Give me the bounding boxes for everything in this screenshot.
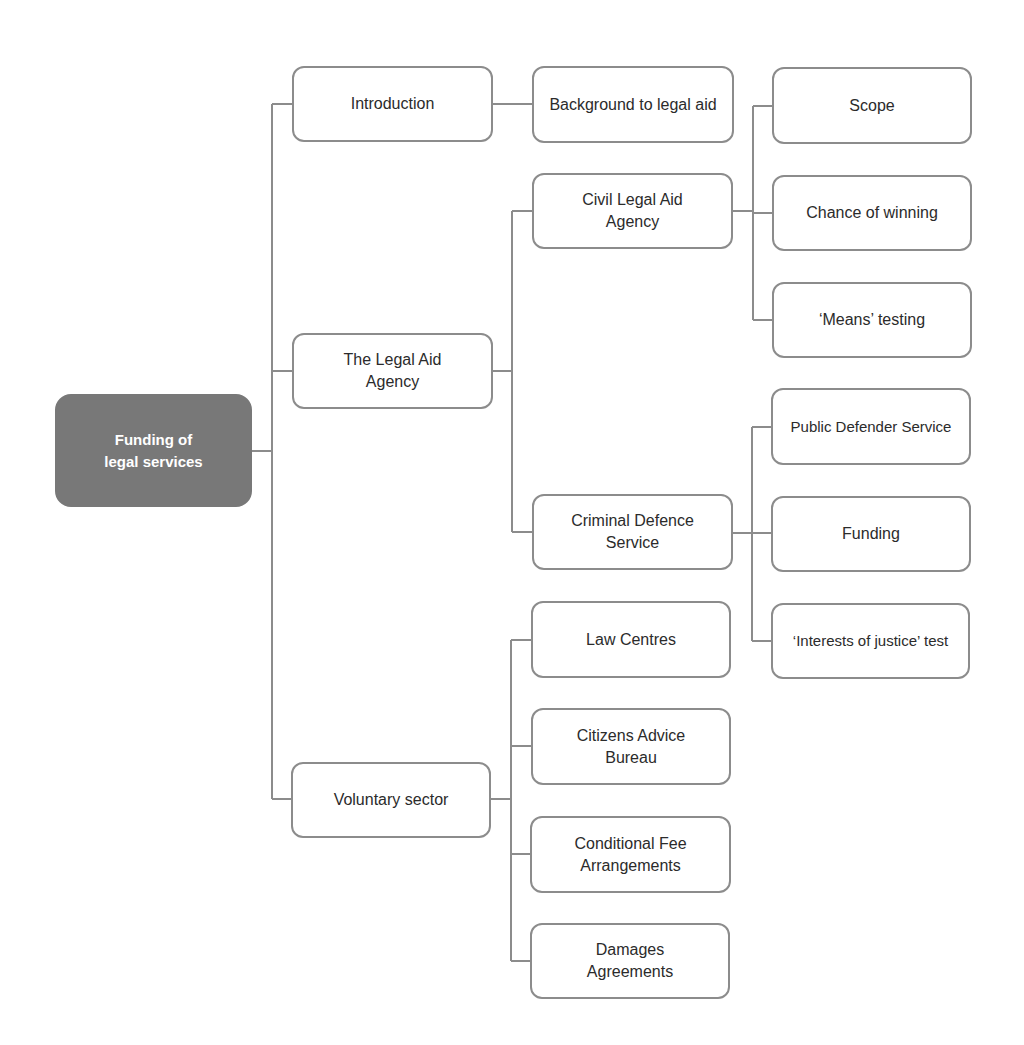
node-label: Citizens Advice Bureau: [561, 725, 701, 769]
node-label: Chance of winning: [806, 202, 938, 224]
node-label: Civil Legal Aid Agency: [568, 189, 698, 233]
node-label: Voluntary sector: [334, 789, 449, 811]
node-label: Criminal Defence Service: [558, 510, 708, 554]
node-civil-legal-aid-agency: Civil Legal Aid Agency: [532, 173, 733, 249]
node-label: Damages Agreements: [575, 939, 685, 983]
node-voluntary-sector: Voluntary sector: [291, 762, 491, 838]
node-damages-agreements: Damages Agreements: [530, 923, 730, 999]
node-scope: Scope: [772, 67, 972, 144]
node-label: Funding: [842, 523, 900, 545]
mind-map: Funding of legal services Introduction T…: [0, 0, 1024, 1045]
node-label: Law Centres: [586, 629, 676, 651]
node-label: The Legal Aid Agency: [333, 349, 453, 393]
node-label: Scope: [849, 95, 894, 117]
node-public-defender-service: Public Defender Service: [771, 388, 971, 465]
root-label: Funding of legal services: [99, 429, 209, 473]
node-chance-of-winning: Chance of winning: [772, 175, 972, 251]
node-label: Background to legal aid: [548, 94, 718, 116]
node-background-to-legal-aid: Background to legal aid: [532, 66, 734, 143]
node-label: Conditional Fee Arrangements: [556, 833, 706, 877]
node-legal-aid-agency: The Legal Aid Agency: [292, 333, 493, 409]
node-label: ‘Means’ testing: [819, 309, 925, 331]
node-label: Introduction: [351, 93, 435, 115]
node-citizens-advice-bureau: Citizens Advice Bureau: [531, 708, 731, 785]
node-conditional-fee-arrangements: Conditional Fee Arrangements: [530, 816, 731, 893]
root-node: Funding of legal services: [55, 394, 252, 507]
node-funding: Funding: [771, 496, 971, 572]
node-label: Public Defender Service: [791, 416, 952, 438]
node-criminal-defence-service: Criminal Defence Service: [532, 494, 733, 570]
node-interests-of-justice-test: ‘Interests of justice’ test: [771, 603, 970, 679]
node-label: ‘Interests of justice’ test: [793, 630, 948, 652]
node-law-centres: Law Centres: [531, 601, 731, 678]
node-means-testing: ‘Means’ testing: [772, 282, 972, 358]
node-introduction: Introduction: [292, 66, 493, 142]
